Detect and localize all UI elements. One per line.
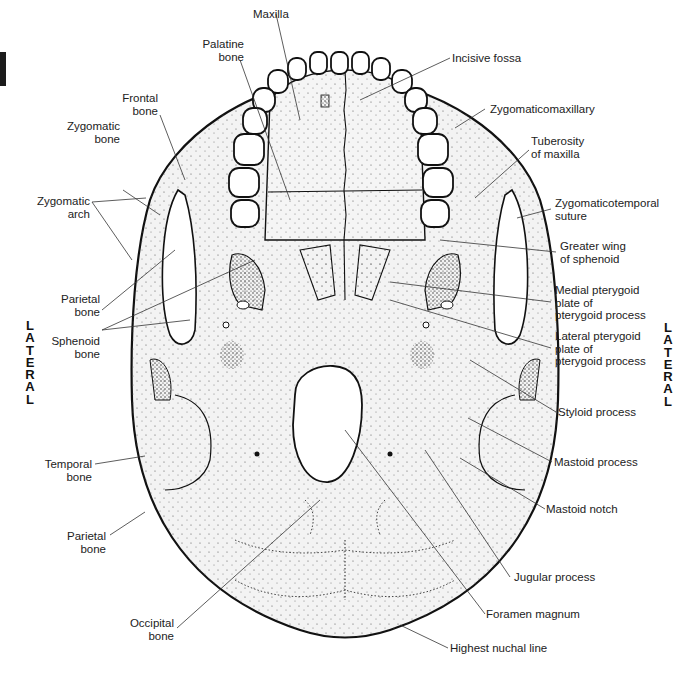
label-text: Medial pterygoid: [555, 284, 646, 297]
label-text: Incisive fossa: [452, 52, 521, 65]
label-tuberosity-of-maxilla: Tuberosity of maxilla: [531, 135, 584, 160]
label-text: bone: [44, 133, 120, 146]
label-text: bone: [40, 306, 100, 319]
label-text: Maxilla: [253, 8, 289, 21]
orientation-letter: L: [661, 396, 675, 408]
label-text: Zygomatic: [44, 120, 120, 133]
label-text: of sphenoid: [560, 253, 626, 266]
label-styloid-process: Styloid process: [558, 406, 636, 419]
label-text: bone: [186, 51, 244, 64]
label-sphenoid-bone: Sphenoid bone: [40, 335, 100, 360]
label-text: suture: [555, 210, 659, 223]
label-text: pterygoid process: [555, 355, 646, 368]
orientation-letter: L: [23, 394, 37, 406]
label-highest-nuchal-line: Highest nuchal line: [450, 642, 547, 655]
label-text: bone: [100, 105, 158, 118]
label-text: of maxilla: [531, 148, 584, 161]
label-text: Occipital: [114, 617, 174, 630]
label-text: Frontal: [100, 92, 158, 105]
label-zygomatic-bone: Zygomatic bone: [44, 120, 120, 145]
label-parietal-bone-upper: Parietal bone: [40, 293, 100, 318]
label-text: Sphenoid: [40, 335, 100, 348]
label-text: Foramen magnum: [486, 608, 580, 621]
label-text: Parietal: [46, 530, 106, 543]
label-lateral-pterygoid-plate: Lateral pterygoid plate of pterygoid pro…: [555, 330, 646, 368]
label-incisive-fossa: Incisive fossa: [452, 52, 521, 65]
label-text: Highest nuchal line: [450, 642, 547, 655]
label-occipital-bone: Occipital bone: [114, 617, 174, 642]
label-text: bone: [114, 630, 174, 643]
label-text: Mastoid notch: [546, 503, 618, 516]
label-text: Zygomaticotemporal: [555, 197, 659, 210]
label-frontal-bone: Frontal bone: [100, 92, 158, 117]
label-text: Parietal: [40, 293, 100, 306]
label-palatine-bone: Palatine bone: [186, 38, 244, 63]
label-text: bone: [46, 543, 106, 556]
label-text: Jugular process: [514, 571, 595, 584]
label-zygomaticotemporal-suture: Zygomaticotemporal suture: [555, 197, 659, 222]
label-text: Styloid process: [558, 406, 636, 419]
orientation-lateral-left: L A T E R A L: [23, 320, 37, 406]
label-greater-wing-of-sphenoid: Greater wing of sphenoid: [560, 240, 626, 265]
label-maxilla: Maxilla: [253, 8, 289, 21]
label-text: arch: [14, 208, 90, 221]
label-text: Greater wing: [560, 240, 626, 253]
label-text: plate of: [555, 343, 646, 356]
label-mastoid-process: Mastoid process: [554, 456, 638, 469]
label-text: plate of: [555, 297, 646, 310]
label-zygomaticomaxillary: Zygomaticomaxillary: [490, 103, 595, 116]
label-parietal-bone-lower: Parietal bone: [46, 530, 106, 555]
label-text: Zygomatic: [14, 195, 90, 208]
label-zygomatic-arch: Zygomatic arch: [14, 195, 90, 220]
label-jugular-process: Jugular process: [514, 571, 595, 584]
label-foramen-magnum: Foramen magnum: [486, 608, 580, 621]
label-text: pterygoid process: [555, 309, 646, 322]
label-text: Temporal: [30, 458, 92, 471]
label-text: bone: [40, 348, 100, 361]
label-text: bone: [30, 471, 92, 484]
label-temporal-bone: Temporal bone: [30, 458, 92, 483]
label-medial-pterygoid-plate: Medial pterygoid plate of pterygoid proc…: [555, 284, 646, 322]
orientation-lateral-right: L A T E R A L: [661, 322, 675, 408]
label-text: Tuberosity: [531, 135, 584, 148]
label-text: Zygomaticomaxillary: [490, 103, 595, 116]
label-text: Lateral pterygoid: [555, 330, 646, 343]
label-text: Palatine: [186, 38, 244, 51]
label-text: Mastoid process: [554, 456, 638, 469]
label-mastoid-notch: Mastoid notch: [546, 503, 618, 516]
